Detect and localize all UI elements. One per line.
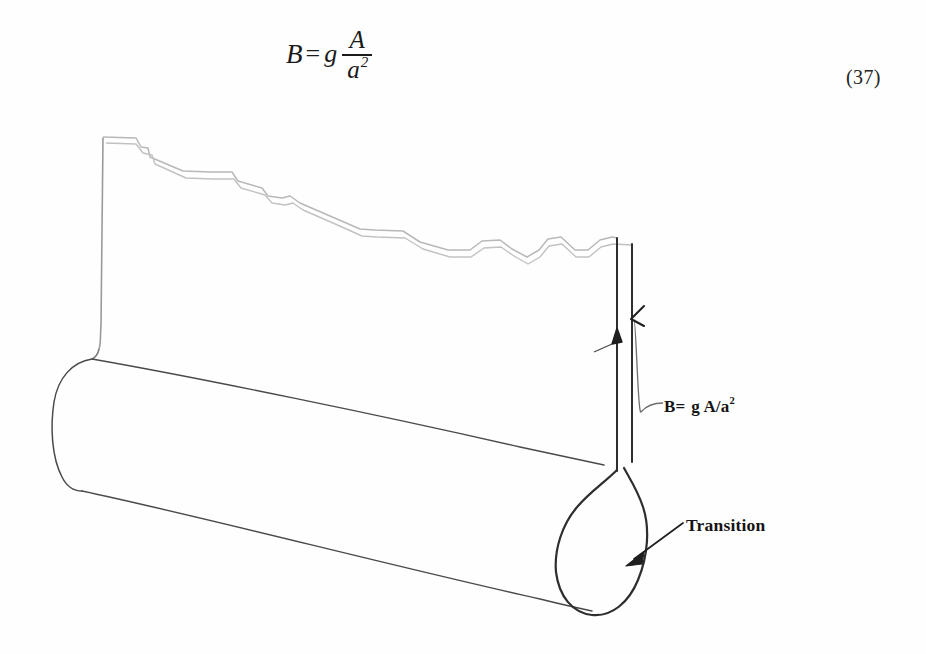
equation-numerator-A: A bbox=[345, 27, 370, 54]
jagged-upper-boundary-outer-line bbox=[103, 137, 617, 257]
equation-denominator-a: a bbox=[347, 56, 360, 83]
equation-lhs-B: B bbox=[286, 41, 303, 68]
transition-label: Transition bbox=[686, 515, 765, 536]
cylinder-top-edge bbox=[92, 359, 604, 465]
left-wall-shoulder-curve bbox=[92, 349, 99, 359]
flux-label-expression: g A/a bbox=[687, 397, 730, 416]
cylinder-left-end-cap bbox=[52, 359, 92, 491]
equation-equals-sign: = bbox=[306, 41, 321, 67]
equation-number: (37) bbox=[846, 66, 881, 89]
jagged-upper-boundary-inner-line bbox=[106, 143, 632, 264]
transition-arrowhead bbox=[626, 552, 644, 566]
flux-tube-diagram-svg bbox=[0, 110, 926, 654]
equation-denominator-exponent: 2 bbox=[361, 54, 369, 70]
equation-fraction: A a2 bbox=[342, 27, 372, 83]
equation-expression: B = g A a2 bbox=[286, 26, 372, 82]
neck-upward-arrowhead bbox=[612, 328, 622, 344]
flux-label-leader-line bbox=[634, 320, 663, 412]
equation-denominator: a2 bbox=[342, 56, 372, 84]
neck-upward-arrow-shaft bbox=[594, 344, 612, 352]
flux-tube-diagram: B= g A/a2 Transition bbox=[0, 110, 926, 654]
equation-row: B = g A a2 (37) bbox=[0, 26, 926, 116]
figure-page: B = g A a2 (37) bbox=[0, 0, 926, 654]
flux-density-label: B= g A/a2 bbox=[664, 396, 735, 417]
flux-label-symbol: B bbox=[664, 397, 676, 416]
flux-label-equals: = bbox=[676, 397, 685, 416]
left-vertical-wall bbox=[99, 138, 103, 349]
equation-coefficient-g: g bbox=[324, 41, 337, 67]
cylinder-bottom-edge bbox=[82, 491, 592, 611]
flux-tube-bulb bbox=[556, 468, 647, 615]
flux-label-exponent: 2 bbox=[730, 395, 735, 406]
